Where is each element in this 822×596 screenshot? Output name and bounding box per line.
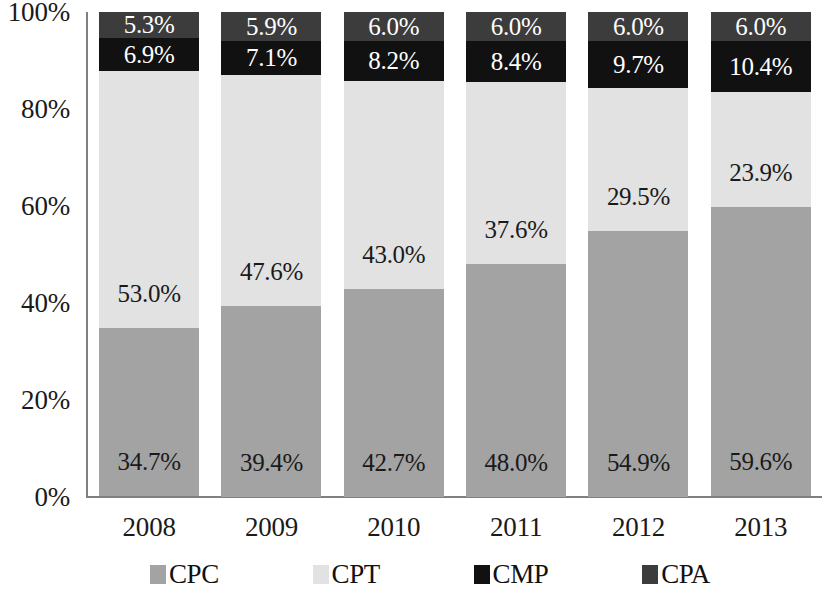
x-tick: 2008 [88,505,210,549]
bar-segment-label: 8.2% [368,48,419,73]
bar-segment-cpa[interactable]: 6.0% [344,12,444,41]
legend-label: CPC [169,561,219,588]
y-tick-label: 40% [21,290,70,317]
bar-segment-label: 39.4% [240,450,303,475]
chart-legend: CPCCPTCMPCPA [150,556,710,592]
legend-label: CMP [493,561,549,588]
bar-segment-cpa[interactable]: 5.3% [99,12,199,38]
bar-segment-label: 10.4% [729,54,792,79]
bar-segment-label: 43.0% [362,242,425,267]
bar-segment-cpt[interactable]: 23.9% [711,92,811,208]
bar-segment-label: 53.0% [118,281,181,306]
legend-label: CPA [661,561,710,588]
stacked-bar-chart: 0%20%40%60%80%100% 5.3%6.9%53.0%34.7%5.9… [0,0,822,596]
x-tick-label: 2013 [734,514,787,541]
legend-label: CPT [332,561,380,588]
bar-segment-label: 37.6% [485,217,548,242]
bar-segment-cpt[interactable]: 53.0% [99,71,199,328]
bar-segment-label: 6.0% [491,14,542,39]
stacked-bar-2013[interactable]: 6.0%10.4%23.9%59.6% [711,12,811,497]
legend-item-cpc[interactable]: CPC [150,561,219,588]
bar-segment-cpc[interactable]: 54.9% [588,231,688,497]
bar-segment-label: 29.5% [607,184,670,209]
bar-segment-cpc[interactable]: 48.0% [466,264,566,497]
bar-group: 5.3%6.9%53.0%34.7% [88,12,210,497]
bar-segment-label: 5.3% [124,12,175,37]
legend-item-cpt[interactable]: CPT [313,561,380,588]
bar-group: 6.0%8.2%43.0%42.7% [333,12,455,497]
bar-segment-cpc[interactable]: 59.6% [711,207,811,496]
bar-segment-cmp[interactable]: 10.4% [711,41,811,91]
y-tick-label: 0% [34,484,70,511]
bar-segment-label: 7.1% [246,45,297,70]
bar-segment-cmp[interactable]: 9.7% [588,41,688,88]
legend-item-cmp[interactable]: CMP [474,561,549,588]
bar-group: 6.0%9.7%29.5%54.9% [577,12,699,497]
legend-swatch-icon [642,565,658,584]
stacked-bar-2009[interactable]: 5.9%7.1%47.6%39.4% [221,12,321,497]
stacked-bar-2008[interactable]: 5.3%6.9%53.0%34.7% [99,12,199,497]
bar-segment-cmp[interactable]: 8.4% [466,41,566,82]
x-tick-label: 2010 [367,514,420,541]
bar-segment-label: 47.6% [240,259,303,284]
bar-segment-cpt[interactable]: 29.5% [588,88,688,231]
stacked-bar-2011[interactable]: 6.0%8.4%37.6%48.0% [466,12,566,497]
bar-segment-label: 54.9% [607,450,670,475]
bar-segment-label: 6.0% [735,14,786,39]
bar-segment-cpc[interactable]: 42.7% [344,289,444,496]
bar-segment-label: 34.7% [118,449,181,474]
x-tick: 2010 [333,505,455,549]
bar-segment-cmp[interactable]: 8.2% [344,41,444,81]
x-tick-label: 2008 [123,514,176,541]
plot-area: 5.3%6.9%53.0%34.7%5.9%7.1%47.6%39.4%6.0%… [88,12,822,497]
legend-swatch-icon [313,565,329,584]
bar-group: 6.0%8.4%37.6%48.0% [455,12,577,497]
bar-segment-label: 59.6% [729,449,792,474]
bar-segment-label: 8.4% [491,49,542,74]
bar-segment-cpa[interactable]: 6.0% [588,12,688,41]
bar-segment-cpt[interactable]: 43.0% [344,81,444,290]
bar-segment-label: 6.0% [368,14,419,39]
y-tick-label: 20% [21,387,70,414]
bar-segment-cpt[interactable]: 47.6% [221,75,321,306]
x-tick: 2011 [455,505,577,549]
bar-segment-cpa[interactable]: 6.0% [466,12,566,41]
x-tick: 2013 [700,505,822,549]
bar-segment-cmp[interactable]: 6.9% [99,38,199,71]
bar-segment-cpc[interactable]: 39.4% [221,306,321,497]
bar-segment-label: 42.7% [362,450,425,475]
x-axis: 200820092010201120122013 [88,505,822,549]
bar-segment-label: 23.9% [729,160,792,185]
bar-group: 6.0%10.4%23.9%59.6% [700,12,822,497]
x-tick: 2009 [210,505,332,549]
y-tick-label: 80% [21,96,70,123]
bar-segment-cpa[interactable]: 6.0% [711,12,811,41]
x-tick: 2012 [577,505,699,549]
stacked-bar-2012[interactable]: 6.0%9.7%29.5%54.9% [588,12,688,497]
y-axis: 0%20%40%60%80%100% [0,0,78,520]
legend-item-cpa[interactable]: CPA [642,561,710,588]
legend-swatch-icon [150,565,166,584]
bar-segment-label: 9.7% [613,52,664,77]
bar-segment-label: 6.9% [124,42,175,67]
bar-segment-cpt[interactable]: 37.6% [466,82,566,264]
bar-segment-cpc[interactable]: 34.7% [99,328,199,496]
stacked-bar-2010[interactable]: 6.0%8.2%43.0%42.7% [344,12,444,497]
y-tick-label: 60% [21,193,70,220]
y-tick-label: 100% [8,0,70,26]
x-tick-label: 2009 [245,514,298,541]
bar-segment-cmp[interactable]: 7.1% [221,41,321,75]
bar-segment-label: 48.0% [485,450,548,475]
bar-segment-label: 5.9% [246,14,297,39]
bar-segment-cpa[interactable]: 5.9% [221,12,321,41]
legend-swatch-icon [474,565,490,584]
bar-segment-label: 6.0% [613,14,664,39]
x-tick-label: 2011 [490,514,542,541]
bar-group: 5.9%7.1%47.6%39.4% [210,12,332,497]
x-tick-label: 2012 [612,514,665,541]
